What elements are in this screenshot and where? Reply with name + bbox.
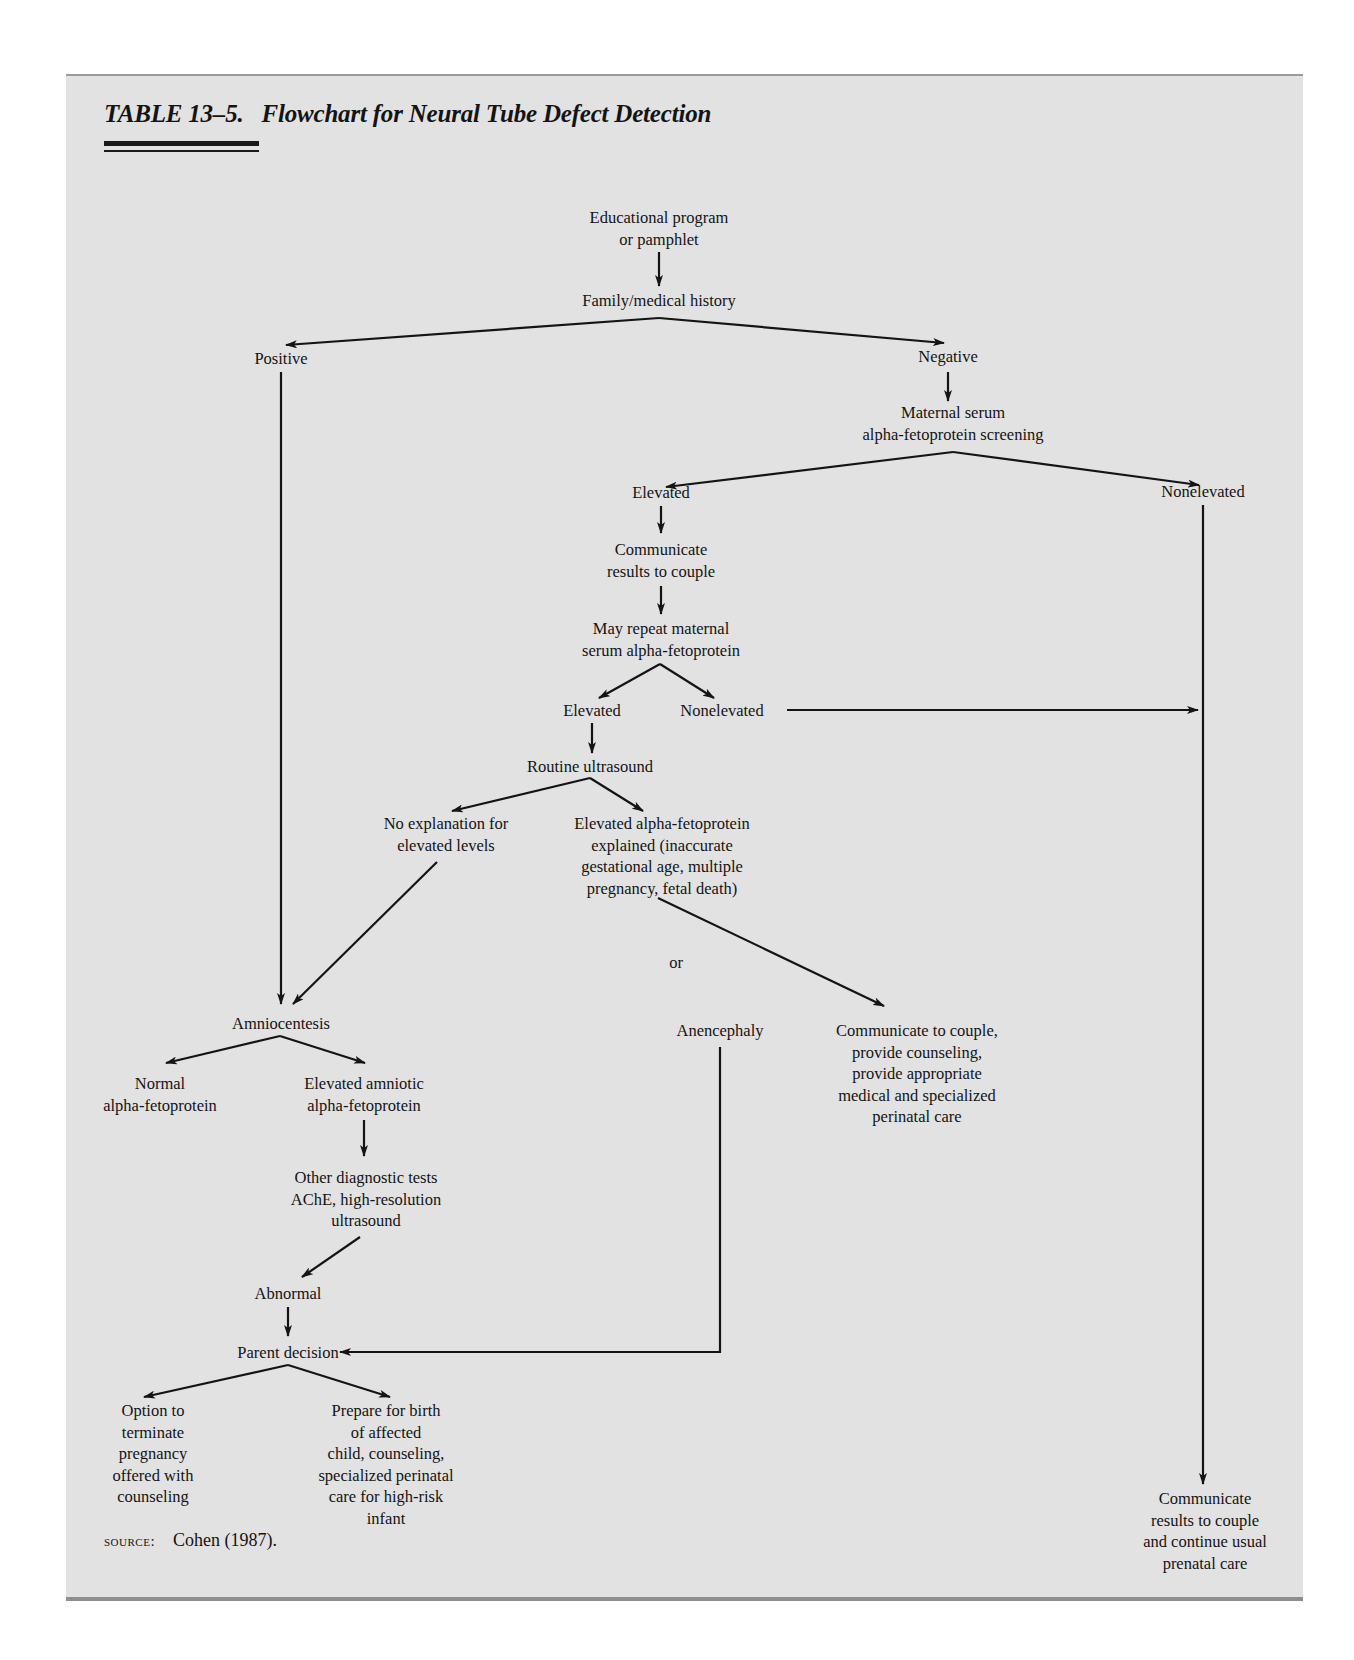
node-may-repeat: May repeat maternal serum alpha-fetoprot… <box>582 618 740 661</box>
node-prepare-birth: Prepare for birth of affected child, cou… <box>318 1400 453 1529</box>
node-other-tests: Other diagnostic tests AChE, high-resolu… <box>291 1167 441 1232</box>
node-communicate-counseling: Communicate to couple, provide counselin… <box>836 1020 998 1128</box>
node-elevated-1: Elevated <box>632 482 690 504</box>
node-communicate-usual-care: Communicate results to couple and contin… <box>1143 1488 1267 1574</box>
node-positive: Positive <box>254 348 307 370</box>
node-parent-decision: Parent decision <box>237 1342 338 1364</box>
node-msafp-screening: Maternal serum alpha-fetoprotein screeni… <box>863 402 1044 445</box>
source-citation: Cohen (1987). <box>173 1530 277 1550</box>
source-label: SOURCE: <box>104 1533 155 1549</box>
node-afp-explained: Elevated alpha-fetoprotein explained (in… <box>574 813 749 899</box>
node-anencephaly: Anencephaly <box>676 1020 763 1042</box>
node-elevated-2: Elevated <box>563 700 621 722</box>
node-nonelevated-1: Nonelevated <box>1161 481 1244 503</box>
node-communicate-results: Communicate results to couple <box>607 539 715 582</box>
node-abnormal: Abnormal <box>255 1283 322 1305</box>
node-educational-program: Educational program or pamphlet <box>590 207 729 250</box>
node-routine-ultrasound: Routine ultrasound <box>527 756 653 778</box>
node-family-history: Family/medical history <box>582 290 736 312</box>
node-option-terminate: Option to terminate pregnancy offered wi… <box>113 1400 194 1508</box>
source-note: SOURCE:Cohen (1987). <box>104 1530 277 1551</box>
node-elevated-amniotic: Elevated amniotic alpha-fetoprotein <box>304 1073 424 1116</box>
node-normal-afp: Normal alpha-fetoprotein <box>103 1073 217 1116</box>
node-negative: Negative <box>918 346 978 368</box>
node-amniocentesis: Amniocentesis <box>232 1013 330 1035</box>
node-no-explanation: No explanation for elevated levels <box>384 813 509 856</box>
label-or: or <box>669 952 683 974</box>
node-nonelevated-2: Nonelevated <box>680 700 763 722</box>
